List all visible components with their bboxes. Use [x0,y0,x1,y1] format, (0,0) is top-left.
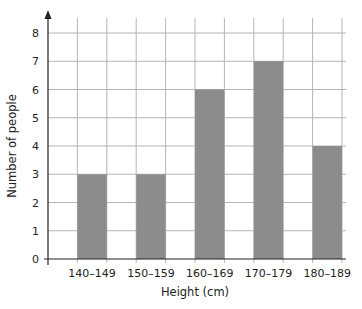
x-tick-label: 180–189 [304,267,352,280]
y-tick-label: 0 [32,253,39,266]
y-tick-label: 1 [32,225,39,238]
y-tick-label: 5 [32,112,39,125]
y-tick-label: 7 [32,55,39,68]
bar-chart: 012345678 140–149150–159160–169170–17918… [0,0,362,309]
x-axis-label: Height (cm) [161,285,229,299]
bar [254,61,283,259]
y-tick-label: 8 [32,27,39,40]
y-tick-labels: 012345678 [32,27,39,266]
y-axis-label: Number of people [5,94,19,198]
bar [195,90,224,260]
y-tick-label: 4 [32,140,39,153]
bar [77,174,106,259]
bars [77,61,342,259]
y-tick-label: 2 [32,197,39,210]
x-tick-label: 160–169 [186,267,234,280]
y-tick-label: 3 [32,168,39,181]
y-axis-arrow-icon [45,10,52,19]
x-tick-label: 170–179 [245,267,293,280]
bar [313,146,342,259]
x-tick-labels: 140–149150–159160–169170–179180–189 [68,267,351,280]
x-tick-label: 140–149 [68,267,116,280]
x-tick-label: 150–159 [127,267,175,280]
bar [136,174,165,259]
y-tick-label: 6 [32,84,39,97]
